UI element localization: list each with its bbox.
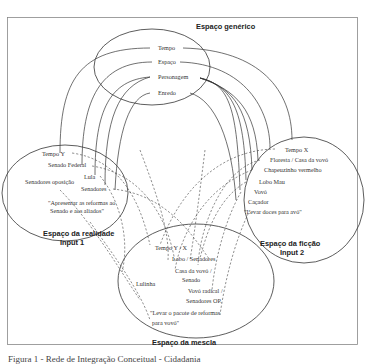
input2-item-cacador: Caçador (248, 198, 269, 205)
dash-generic-center2 (190, 150, 205, 260)
input2-subtitle: Input 2 (280, 248, 304, 257)
generic-item-personagem: Personagem (158, 73, 188, 80)
input1-quote-line1: "Apresentar as reformas ao (48, 199, 115, 206)
generic-item-tempo: Tempo (158, 44, 175, 51)
blend-item-vovo-radical: Vovó radical / (188, 287, 223, 294)
blend-item-senado: Senado (182, 276, 200, 283)
input1-item-lula: Lula (84, 173, 96, 180)
connector-personagem-left1 (95, 77, 150, 175)
generic-space-title: Espaço genérico (196, 22, 256, 31)
connector-personagem-left2 (105, 77, 150, 185)
connector-personagem-right2 (200, 78, 246, 180)
input1-item-senadores-oposicao: Senadores oposição (25, 178, 74, 185)
input2-item-chapeuzinho: Chapeuzinho vermelho (264, 166, 322, 173)
blend-item-senadores-op: Senadores OP. (186, 297, 222, 304)
blend-item-lobo-senadores: Lobo / Senadores (172, 255, 216, 262)
blend-title: Espaço da mescla (152, 338, 217, 347)
input1-item-senadores: Senadores (81, 185, 107, 192)
input1-item-senado-federal: Senado Federal (48, 161, 87, 168)
connector-personagem-right1 (200, 78, 240, 190)
connector-personagem-right3 (200, 78, 252, 170)
dash-vovo (212, 192, 241, 290)
conceptual-integration-network-diagram: Espaço genérico Tempo Espaço Personagem … (0, 0, 365, 364)
generic-item-espaco: Espaço (158, 58, 176, 65)
connector-personagem-right4 (200, 78, 258, 160)
dash-lobo (200, 182, 246, 258)
input1-item-tempo-y: Tempo Y (42, 150, 65, 157)
connector-espaco-right (180, 62, 270, 148)
input1-title: Espaço da realidade (43, 229, 114, 238)
input2-quote: "Levar doces para avó" (244, 208, 302, 215)
generic-item-enredo: Enredo (158, 89, 176, 96)
dash-tempo-x (160, 149, 275, 245)
input2-item-vovo: Vovó (254, 188, 267, 195)
blend-item-casa-vovo: Casa da vovó / (175, 267, 212, 274)
input2-title: Espaço da ficção (260, 239, 321, 248)
connector-enredo-right (190, 93, 236, 200)
connector-tempo-right (183, 48, 292, 140)
input1-quote-line2: Senado e aos aliados" (50, 207, 104, 214)
blend-quote-line2: para vovó" (152, 319, 180, 326)
blend-item-tempo-yx: Tempo Y / X (155, 244, 187, 251)
figure-caption: Figura 1 - Rede de Integração Conceitual… (8, 354, 200, 364)
input1-ellipse (2, 145, 128, 241)
blend-item-lulinha: Lulinha (136, 280, 155, 287)
input2-item-floresta: Floresta / Casa da vovó (270, 156, 328, 163)
blend-quote-line1: "Levar o pacote de reformas (150, 309, 221, 316)
dash-levar-doces (220, 210, 250, 315)
input2-item-lobo-mau: Lobo Mau (259, 178, 285, 185)
input2-item-tempo-x: Tempo X (285, 146, 309, 153)
input1-subtitle: Input 1 (60, 238, 84, 247)
